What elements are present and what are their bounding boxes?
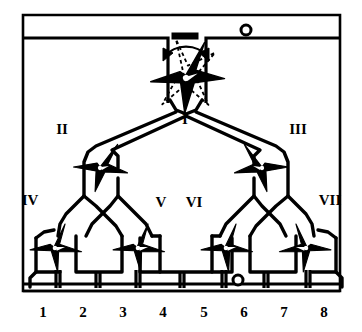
roman-label-I: I xyxy=(182,111,188,127)
rotary-star-valve-VI[interactable] xyxy=(201,224,253,272)
distribution-network-diagram: I II III IV V VI VII 1 2 3 4 5 6 7 8 xyxy=(0,0,362,332)
port-label-2: 2 xyxy=(79,304,87,320)
top-right-port-circle xyxy=(241,25,251,35)
roman-label-VI: VI xyxy=(186,194,203,210)
port-label-7: 7 xyxy=(280,304,288,320)
port-label-5: 5 xyxy=(200,304,208,320)
port-label-1: 1 xyxy=(39,304,47,320)
roman-label-V: V xyxy=(156,194,167,210)
port-number-labels: 1 2 3 4 5 6 7 8 xyxy=(39,304,328,320)
roman-numeral-labels: I II III IV V VI VII xyxy=(22,111,342,210)
roman-label-III: III xyxy=(289,121,307,137)
port-label-6: 6 xyxy=(240,304,248,320)
rotary-star-valve-III[interactable] xyxy=(235,144,289,191)
port-label-4: 4 xyxy=(159,304,167,320)
top-left-reservoir xyxy=(23,38,168,103)
port-label-8: 8 xyxy=(320,304,328,320)
bottom-port-6-circle xyxy=(233,275,243,285)
roman-label-VII: VII xyxy=(319,192,342,208)
roman-label-II: II xyxy=(56,121,68,137)
rotary-star-valve-I[interactable] xyxy=(146,40,230,118)
valve-stop-bar xyxy=(172,33,198,39)
figure-root: I II III IV V VI VII 1 2 3 4 5 6 7 8 xyxy=(0,0,362,332)
rotary-star-valve-IV[interactable] xyxy=(30,224,82,272)
port-label-3: 3 xyxy=(119,304,127,320)
roman-label-IV: IV xyxy=(22,192,39,208)
top-right-reservoir xyxy=(206,38,340,103)
